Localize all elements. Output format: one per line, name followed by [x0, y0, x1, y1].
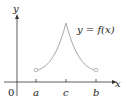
y-axis-arrow-icon — [15, 14, 19, 19]
y-axis-label: y — [12, 3, 19, 14]
curve-left-branch — [38, 23, 67, 70]
open-endpoint-a — [34, 68, 38, 72]
tick-label-a: a — [33, 87, 39, 98]
x-axis-label: x — [115, 78, 121, 89]
origin-label: 0 — [8, 87, 14, 98]
tick-label-c: c — [63, 87, 69, 98]
function-graph: y x 0 a c b y = f(x) — [0, 0, 122, 102]
curve-label: y = f(x) — [76, 24, 115, 35]
tick-label-b: b — [93, 87, 99, 98]
open-endpoint-b — [94, 68, 98, 72]
